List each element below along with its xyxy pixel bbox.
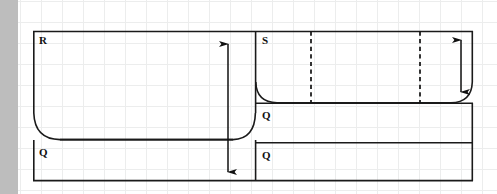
region-r-bottom-left-round [34, 113, 60, 140]
region-label-r: R [39, 35, 47, 46]
region-label-s: S [262, 35, 268, 46]
diagram-canvas: R Q S Q Q [0, 0, 497, 194]
region-label-q-left-bottom: Q [39, 147, 48, 158]
diagram-svg [0, 0, 497, 194]
region-label-q-right-bottom: Q [262, 150, 271, 161]
figure-linework [0, 0, 497, 194]
region-s-bottom-left-round [256, 82, 277, 103]
region-r-bottom-right-round [233, 113, 255, 140]
region-label-q-right-middle: Q [262, 110, 271, 121]
